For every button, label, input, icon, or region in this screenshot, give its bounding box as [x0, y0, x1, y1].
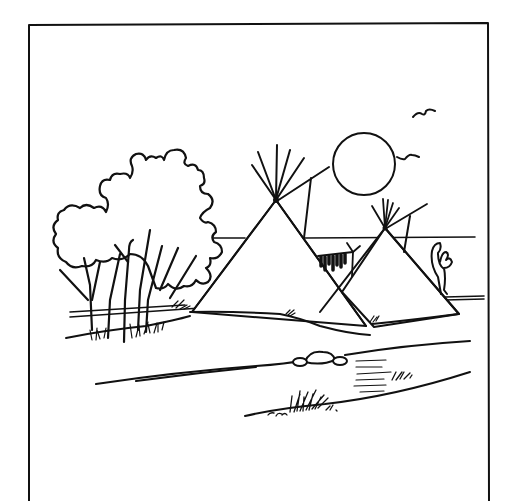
bird-icon	[397, 155, 419, 159]
stream	[96, 341, 470, 416]
illustration-canvas	[0, 0, 516, 501]
tree-ground-line	[66, 316, 190, 338]
tree-foliage	[53, 150, 222, 289]
water-ripples	[354, 360, 391, 392]
tree-trunks	[60, 230, 196, 342]
rock	[293, 352, 347, 366]
sun	[333, 133, 395, 195]
bird-icon	[413, 110, 435, 118]
large-tipi	[192, 145, 366, 326]
